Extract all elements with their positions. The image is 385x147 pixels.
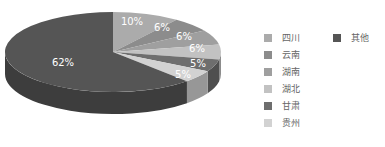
legend-label: 其他 [351,31,369,44]
pie-chart: 10%6%6%6%5%5%62% [0,0,240,147]
slice-label: 62% [52,57,74,68]
legend-item-sichuan: 四川 [264,31,300,44]
legend-swatch [264,51,272,59]
legend-item-hubei: 湖北 [264,82,300,95]
slice-label: 6% [189,43,205,54]
slice-label: 10% [121,16,143,27]
legend-swatch [264,102,272,110]
legend-label: 四川 [282,31,300,44]
legend-swatch [264,85,272,93]
legend-label: 云南 [282,48,300,61]
legend-item-gansu: 甘肃 [264,99,300,112]
legend-swatch [333,34,341,42]
legend-label: 甘肃 [282,99,300,112]
legend-item-guizhou: 贵州 [264,116,300,129]
legend-swatch [264,119,272,127]
legend-swatch [264,68,272,76]
legend-label: 湖南 [282,65,300,78]
slice-label: 6% [154,22,170,33]
legend-label: 贵州 [282,116,300,129]
legend-item-yunnan: 云南 [264,48,300,61]
legend-swatch [264,34,272,42]
slice-label: 5% [190,58,206,69]
slice-label: 6% [176,31,192,42]
slice-label: 5% [175,69,191,80]
legend-label: 湖北 [282,82,300,95]
legend-item-hunan: 湖南 [264,65,300,78]
legend-item-other: 其他 [333,31,369,44]
